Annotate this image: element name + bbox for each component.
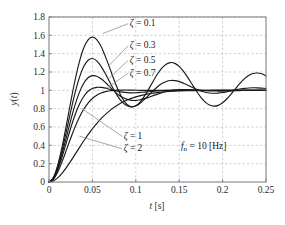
y-tick-label: 0.4 (33, 141, 45, 151)
x-tick-label: 0.2 (217, 185, 229, 195)
y-tick-label: 1.8 (33, 12, 45, 22)
x-tick-label: 0.05 (84, 185, 101, 195)
y-tick-label: 1 (40, 86, 45, 96)
y-tick-label: 1.6 (33, 31, 45, 41)
y-tick-label: 0.6 (33, 122, 45, 132)
annotation-zeta-0-5: ζ = 0.5 (130, 55, 156, 66)
x-tick-label: 0.1 (130, 185, 142, 195)
y-tick-label: 0.8 (33, 104, 45, 114)
x-tick-label: 0.25 (258, 185, 275, 195)
annotation-zeta-2: ζ = 2 (124, 143, 143, 154)
x-axis-label: t [s] (149, 201, 164, 211)
step-response-chart: 00.050.10.150.20.25 00.20.40.60.811.21.4… (0, 0, 285, 225)
y-tick-label: 0 (40, 177, 45, 187)
x-tick-label: 0.15 (171, 185, 188, 195)
y-tick-label: 0.2 (33, 159, 45, 169)
y-tick-label: 1.2 (33, 67, 45, 77)
figure-container: 00.050.10.150.20.25 00.20.40.60.811.21.4… (0, 0, 285, 225)
y-axis-label: y(t) (9, 92, 20, 106)
annotation-zeta-0-1: ζ = 0.1 (130, 18, 156, 29)
y-tick-label: 1.4 (33, 49, 45, 59)
x-tick-label: 0 (47, 185, 52, 195)
annotation-zeta-0-7: ζ = 0.7 (130, 68, 156, 79)
annotation-zeta-0-3: ζ = 0.3 (130, 40, 156, 51)
annotation-zeta-1: ζ = 1 (124, 131, 143, 142)
